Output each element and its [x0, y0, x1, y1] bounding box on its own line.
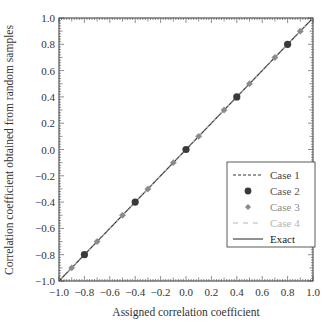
case2-marker [81, 251, 88, 258]
x-tick-label: 0.2 [205, 286, 219, 298]
y-tick-label: −0.6 [35, 222, 55, 234]
x-tick-label: −1.0 [49, 286, 69, 298]
x-tick-label: −0.2 [151, 286, 171, 298]
y-axis-title: Correlation coefficient obtained from ra… [3, 25, 16, 275]
legend-label: Case 2 [270, 185, 300, 197]
y-tick-label: −0.2 [35, 170, 55, 182]
case2-marker [132, 199, 139, 206]
case2-marker [233, 93, 240, 100]
y-tick-label: 0.0 [41, 144, 55, 156]
x-tick-label: 0.8 [281, 286, 295, 298]
y-tick-label: 0.4 [41, 91, 55, 103]
y-tick-label: 1.0 [41, 12, 55, 24]
y-tick-label: 0.2 [41, 117, 55, 129]
x-tick-label: −0.6 [100, 286, 120, 298]
y-tick-label: −1.0 [35, 275, 55, 287]
y-tick-label: −0.8 [35, 249, 55, 261]
y-tick-label: −0.4 [35, 196, 55, 208]
x-tick-label: 0.6 [255, 286, 269, 298]
x-tick-label: −0.4 [125, 286, 145, 298]
legend: Case 1Case 2Case 3Case 4Exact [227, 162, 315, 247]
x-tick-label: −0.8 [74, 286, 94, 298]
circle-marker-icon [245, 188, 252, 195]
legend-label: Case 1 [270, 169, 300, 181]
x-tick-label: 0.4 [230, 286, 244, 298]
case2-marker [182, 146, 189, 153]
case2-marker [284, 41, 291, 48]
correlation-chart: −1.0−0.8−0.6−0.4−0.20.00.20.40.60.81.0−1… [0, 0, 334, 331]
y-tick-label: 0.8 [41, 38, 55, 50]
legend-label: Case 4 [270, 217, 300, 229]
y-tick-label: 0.6 [41, 65, 55, 77]
x-tick-label: 1.0 [306, 286, 320, 298]
x-tick-label: 0.0 [179, 286, 193, 298]
x-axis-title: Assigned correlation coefficient [112, 306, 260, 319]
legend-label: Case 3 [270, 201, 300, 213]
legend-label: Exact [270, 233, 295, 245]
